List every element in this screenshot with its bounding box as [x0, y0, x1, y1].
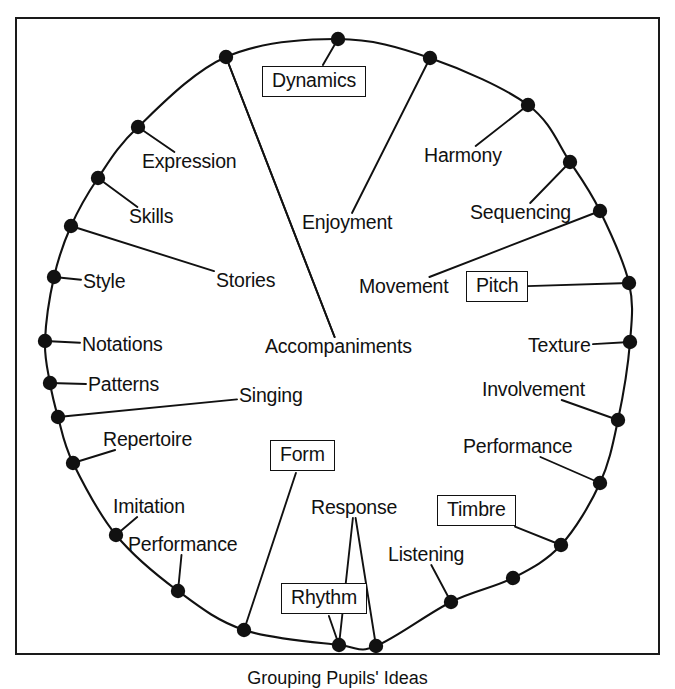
leader-line-pitch: [527, 283, 629, 286]
label-style: Style: [83, 272, 125, 292]
leader-line-harmony: [476, 105, 528, 146]
label-performance-l: Performance: [128, 535, 237, 555]
label-text: Performance: [128, 533, 237, 555]
leader-line-response: [356, 518, 376, 646]
label-text: Texture: [528, 334, 591, 356]
wheel-node: [611, 413, 625, 427]
wheel-node: [66, 456, 80, 470]
label-response: Response: [311, 498, 397, 518]
wheel-node: [51, 410, 65, 424]
wheel-node: [43, 376, 57, 390]
leader-line-skills: [98, 178, 137, 207]
label-accompaniments: Accompaniments: [265, 337, 412, 357]
leader-line-sequencing: [530, 162, 570, 203]
wheel-node: [622, 276, 636, 290]
wheel-node: [423, 51, 437, 65]
wheel-node: [554, 538, 568, 552]
label-listening: Listening: [388, 545, 464, 565]
label-text: Stories: [216, 269, 275, 291]
label-text: Patterns: [88, 373, 159, 395]
leader-line-involvement: [562, 400, 618, 420]
label-texture: Texture: [528, 336, 591, 356]
wheel-node: [38, 334, 52, 348]
label-text: Timbre: [447, 498, 506, 520]
wheel-node: [171, 584, 185, 598]
label-text: Pitch: [476, 274, 518, 296]
leader-line-performance-r: [540, 457, 600, 483]
label-text: Imitation: [113, 495, 185, 517]
label-sequencing: Sequencing: [470, 203, 571, 223]
label-performance-r: Performance: [463, 437, 572, 457]
label-skills: Skills: [129, 207, 173, 227]
label-text: Dynamics: [272, 69, 356, 91]
label-imitation: Imitation: [113, 497, 185, 517]
label-text: Response: [311, 496, 397, 518]
diagram-page: DynamicsHarmonySequencingPitchTextureInv…: [0, 0, 675, 689]
label-timbre: Timbre: [437, 495, 516, 526]
label-dynamics: Dynamics: [262, 66, 366, 97]
leader-line-response: [339, 518, 353, 645]
label-text: Performance: [463, 435, 572, 457]
label-text: Accompaniments: [265, 335, 412, 357]
wheel-node: [506, 571, 520, 585]
label-movement: Movement: [359, 277, 448, 297]
label-text: Skills: [129, 205, 173, 227]
figure-caption-text: Grouping Pupils' Ideas: [247, 668, 428, 689]
label-text: Sequencing: [470, 201, 571, 223]
label-stories: Stories: [216, 271, 275, 291]
wheel-node: [64, 219, 78, 233]
label-involvement: Involvement: [482, 380, 585, 400]
label-form: Form: [270, 440, 335, 471]
wheel-node: [237, 623, 251, 637]
label-text: Enjoyment: [302, 211, 392, 233]
label-singing: Singing: [239, 386, 303, 406]
wheel-node: [131, 120, 145, 134]
label-enjoyment: Enjoyment: [302, 213, 392, 233]
wheel-node: [369, 639, 383, 653]
leader-line-stories: [71, 226, 214, 271]
wheel-node: [593, 204, 607, 218]
wheel-node: [563, 155, 577, 169]
label-harmony: Harmony: [424, 146, 502, 166]
wheel-node: [623, 335, 637, 349]
label-text: Harmony: [424, 144, 502, 166]
wheel-node: [109, 528, 123, 542]
leader-line-singing: [58, 399, 237, 417]
wheel-node: [91, 171, 105, 185]
leader-line-timbre: [515, 527, 561, 545]
wheel-node: [47, 270, 61, 284]
label-text: Style: [83, 270, 125, 292]
figure-caption: Grouping Pupils' Ideas: [0, 668, 675, 689]
wheel-node: [331, 32, 345, 46]
label-text: Repertoire: [103, 428, 192, 450]
wheel-node: [521, 98, 535, 112]
label-patterns: Patterns: [88, 375, 159, 395]
label-text: Expression: [142, 150, 236, 172]
label-rhythm: Rhythm: [281, 583, 367, 614]
label-pitch: Pitch: [466, 271, 528, 302]
label-text: Rhythm: [291, 586, 357, 608]
label-text: Notations: [82, 333, 163, 355]
label-expression: Expression: [142, 152, 236, 172]
label-text: Listening: [388, 543, 464, 565]
label-text: Involvement: [482, 378, 585, 400]
label-repertoire: Repertoire: [103, 430, 192, 450]
label-notations: Notations: [82, 335, 163, 355]
leader-line-accompaniments: [226, 57, 335, 337]
wheel-node: [444, 595, 458, 609]
wheel-node: [593, 476, 607, 490]
label-text: Form: [280, 443, 325, 465]
wheel-node: [332, 638, 346, 652]
label-text: Movement: [359, 275, 448, 297]
wheel-node: [219, 50, 233, 64]
label-text: Singing: [239, 384, 303, 406]
